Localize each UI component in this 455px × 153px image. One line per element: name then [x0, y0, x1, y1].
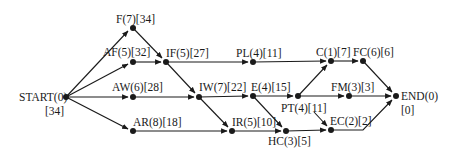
node-label-if: IF(5)[27]: [166, 48, 209, 60]
node-label-aw: AW(6)[28]: [112, 82, 163, 94]
node-label-pt: PT(4)[11]: [281, 103, 327, 115]
node-label-end: END(0): [401, 91, 438, 103]
node-label-ar: AR(8)[18]: [133, 117, 182, 129]
node-label-e: E(4)[15]: [251, 82, 291, 94]
node-label-af: AF(5)[32]: [103, 47, 150, 59]
node-label-f: F(7)[34]: [116, 14, 155, 26]
node-label-fm: FM(3)[3]: [331, 82, 374, 94]
node-label-fc: FC(6)[6]: [353, 47, 394, 59]
network-diagram: START(0) [34] F(7)[34] AF(5)[32] AW(6)[2…: [0, 0, 455, 153]
diagram-edges: [0, 0, 455, 153]
node-label-hc: HC(3)[5]: [268, 136, 311, 148]
node-label-iw: IW(7)[22]: [199, 82, 246, 94]
node-sub-end: [0]: [401, 105, 414, 117]
node-label-start: START(0): [19, 92, 67, 104]
node-label-pl: PL(4)[11]: [236, 48, 282, 60]
node-label-c: C(1)[7]: [316, 47, 351, 59]
node-label-ec: EC(2)[2]: [330, 116, 372, 128]
node-label-ir: IR(5)[10]: [232, 117, 276, 129]
node-sub-start: [34]: [45, 106, 64, 118]
